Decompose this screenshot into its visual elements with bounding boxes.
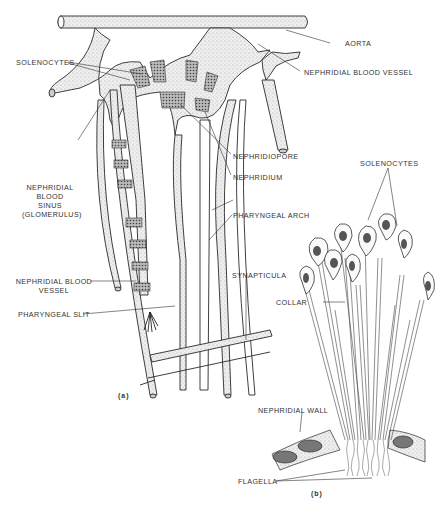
- label-nephridial-blood-vessel: NEPHRIDIAL BLOOD VESSEL: [14, 277, 94, 295]
- label-nephridial-blood-vessel-top: NEPHRIDIAL BLOOD VESSEL: [304, 68, 413, 77]
- label-glomerulus-line2: BLOOD: [22, 192, 78, 201]
- synapticula-bar: [150, 330, 272, 362]
- label-nbv-line2: VESSEL: [14, 286, 94, 295]
- label-solenocytes-a: SOLENOCYTES: [16, 58, 74, 67]
- label-solenocytes-b: SOLENOCYTES: [360, 159, 418, 168]
- flagella: [347, 440, 390, 476]
- label-glomerulus: NEPHRIDIAL BLOOD SINUS (GLOMERULUS): [22, 183, 78, 219]
- label-pharyngeal-slit: PHARYNGEAL SLIT: [18, 310, 90, 319]
- label-glomerulus-line1: NEPHRIDIAL: [22, 183, 78, 192]
- panel-b-artwork: [272, 214, 434, 476]
- label-glomerulus-line3: SINUS: [22, 201, 78, 210]
- solenocyte-cells: [300, 214, 435, 300]
- label-nephridial-wall: NEPHRIDIAL WALL: [258, 406, 328, 415]
- label-flagella: FLAGELLA: [238, 477, 278, 486]
- label-nephridiopore: NEPHRIDIOPORE: [233, 152, 299, 161]
- label-pharyngeal-arch: PHARYNGEAL ARCH: [233, 211, 310, 220]
- nephridium-diagram: AORTA NEPHRIDIAL BLOOD VESSEL SOLENOCYTE…: [0, 0, 441, 517]
- label-synapticula: SYNAPTICULA: [232, 271, 286, 280]
- label-glomerulus-line4: (GLOMERULUS): [22, 210, 78, 219]
- panel-a-tag: (a): [118, 392, 130, 399]
- diagram-artwork: [0, 0, 441, 517]
- panel-b-tag: (b): [311, 490, 323, 497]
- label-nbv-line1: NEPHRIDIAL BLOOD: [14, 277, 94, 286]
- label-nephridium: NEPHRIDIUM: [233, 173, 283, 182]
- label-aorta: AORTA: [345, 39, 371, 48]
- label-collar: COLLAR: [276, 298, 307, 307]
- panel-a-artwork: [49, 16, 308, 398]
- aorta-vessel: [58, 16, 308, 28]
